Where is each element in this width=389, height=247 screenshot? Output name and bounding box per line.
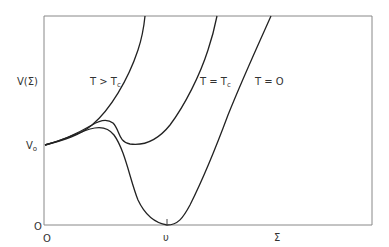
curve-label-t-eq-tc: T = Tc [199, 76, 231, 89]
curve-t-eq-tc [45, 16, 217, 145]
v0-label: Vo [26, 140, 37, 153]
curve-label-t-gt-tc: T > Tc [89, 76, 121, 89]
curve-label-t-eq-0: T = O [254, 76, 284, 87]
y-axis-label: V(Σ) [17, 76, 38, 87]
x-zero-label: O [43, 233, 51, 244]
y-zero-label: O [34, 221, 42, 232]
potential-diagram: V(Σ) Vo O O υ Σ T > Tc T = Tc T = O [0, 0, 389, 247]
curve-t-eq-0 [45, 16, 271, 225]
x-axis-label: Σ [274, 232, 280, 243]
plot-frame [44, 16, 372, 225]
upsilon-label: υ [163, 232, 169, 243]
